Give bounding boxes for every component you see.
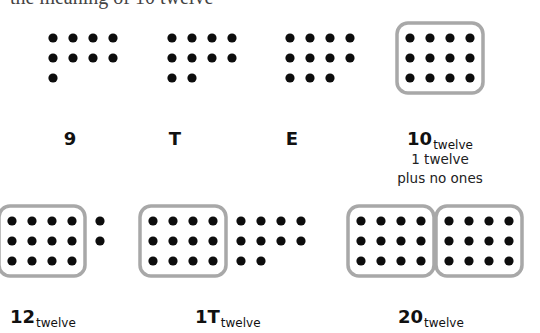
twelve-dot [27, 216, 36, 225]
one-dot [108, 33, 117, 42]
twelve-dot [465, 33, 474, 42]
one-dot [88, 53, 97, 62]
twelve-dot [47, 216, 56, 225]
one-dot [325, 53, 334, 62]
label-main: E [286, 128, 298, 149]
twelve-dot [208, 256, 217, 265]
one-dot [207, 33, 216, 42]
one-dot [68, 53, 77, 62]
one-dot [95, 216, 104, 225]
twelve-dot [67, 256, 76, 265]
one-dot [256, 236, 265, 245]
label-twentyfour: 20twelve [398, 306, 488, 327]
twelve-dot [464, 256, 473, 265]
label-base: twelve [36, 316, 76, 330]
twelve-dot [396, 216, 405, 225]
one-dot [108, 53, 117, 62]
twelve-dot [425, 73, 434, 82]
one-dot [345, 33, 354, 42]
twelve-dot [504, 216, 513, 225]
one-dot [296, 236, 305, 245]
twelve-dot [445, 73, 454, 82]
caption-line-2: plus no ones [380, 170, 500, 186]
label-main: 10 [407, 128, 432, 149]
twelve-dot [484, 236, 493, 245]
one-dot [227, 33, 236, 42]
twelve-dot [168, 236, 177, 245]
twelve-dot [416, 216, 425, 225]
one-dot [68, 33, 77, 42]
label-eleven: E [272, 128, 312, 149]
twelve-dot [148, 216, 157, 225]
one-dot [305, 33, 314, 42]
one-dot [207, 53, 216, 62]
twelve-dot [444, 236, 453, 245]
one-dot [236, 236, 245, 245]
one-dot [167, 53, 176, 62]
twelve-dot [148, 236, 157, 245]
label-main: 1T [195, 306, 220, 327]
one-dot [276, 236, 285, 245]
label-nine: 9 [50, 128, 90, 149]
twelve-dot [465, 73, 474, 82]
one-dot [95, 236, 104, 245]
one-dot [305, 53, 314, 62]
one-dot [305, 73, 314, 82]
label-main: 12 [10, 306, 35, 327]
twelve-dot [27, 236, 36, 245]
one-dot [285, 73, 294, 82]
label-ten: T [155, 128, 195, 149]
one-dot [48, 33, 57, 42]
twelve-dot [208, 216, 217, 225]
one-dot [256, 256, 265, 265]
one-dot [296, 216, 305, 225]
twelve-dot [188, 236, 197, 245]
twelve-dot [168, 256, 177, 265]
twelve-dot [425, 33, 434, 42]
twelve-dot [396, 256, 405, 265]
one-dot [167, 73, 176, 82]
label-fourteen: 12twelve [10, 306, 100, 327]
twelve-dot [7, 216, 16, 225]
twelve-dot [356, 216, 365, 225]
twelve-dot [376, 216, 385, 225]
label-twelve: 10twelve [385, 128, 495, 149]
twelve-dot [464, 236, 473, 245]
one-dot [345, 53, 354, 62]
twelve-dot [484, 256, 493, 265]
one-dot [167, 33, 176, 42]
one-dot [285, 53, 294, 62]
label-base: twelve [221, 316, 261, 330]
one-dot [187, 73, 196, 82]
twelve-dot [188, 216, 197, 225]
twelve-dot [444, 216, 453, 225]
twelve-dot [148, 256, 157, 265]
twelve-dot [416, 256, 425, 265]
twelve-dot [405, 73, 414, 82]
label-main: T [169, 128, 181, 149]
twelve-dot [208, 236, 217, 245]
one-dot [256, 216, 265, 225]
twelve-dot [188, 256, 197, 265]
one-dot [325, 33, 334, 42]
twelve-dot [405, 33, 414, 42]
one-dot [227, 53, 236, 62]
twelve-dot [445, 53, 454, 62]
twelve-dot [396, 236, 405, 245]
one-dot [285, 33, 294, 42]
one-dot [48, 73, 57, 82]
twelve-dot [405, 53, 414, 62]
twelve-dot [356, 236, 365, 245]
one-dot [276, 216, 285, 225]
one-dot [187, 53, 196, 62]
label-main: 20 [398, 306, 423, 327]
twelve-dot [356, 256, 365, 265]
label-base: twelve [433, 138, 473, 152]
label-base: twelve [424, 316, 464, 330]
twelve-dot [47, 236, 56, 245]
twelve-dot [504, 256, 513, 265]
twelve-dot [425, 53, 434, 62]
twelve-dot [416, 236, 425, 245]
twelve-dot [7, 236, 16, 245]
twelve-dot [464, 216, 473, 225]
